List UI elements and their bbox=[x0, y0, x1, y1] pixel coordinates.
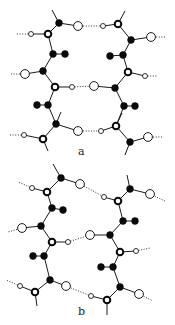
filled-atom bbox=[128, 37, 135, 44]
large-open-atom bbox=[135, 290, 144, 299]
filled-atom bbox=[107, 232, 114, 239]
bold-ring-atom bbox=[113, 123, 120, 130]
bold-ring-atom bbox=[49, 239, 56, 246]
filled-atom bbox=[132, 218, 139, 225]
hydrogen-bonds bbox=[9, 26, 166, 137]
filled-atom bbox=[107, 53, 114, 60]
bold-ring-atom bbox=[125, 69, 132, 76]
bold-ring-atom bbox=[40, 136, 47, 143]
filled-atom bbox=[127, 139, 134, 146]
chain-continuation-bonds bbox=[43, 10, 130, 155]
atoms bbox=[18, 175, 155, 304]
large-open-atom bbox=[21, 70, 30, 79]
filled-atom bbox=[45, 102, 52, 109]
large-open-atom bbox=[147, 33, 156, 42]
bold-ring-atom bbox=[115, 21, 122, 28]
filled-atom bbox=[56, 20, 63, 27]
filled-atom bbox=[121, 103, 128, 110]
small-open-atom bbox=[29, 32, 34, 37]
covalent-bond bbox=[44, 256, 50, 280]
bold-ring-atom bbox=[32, 289, 39, 296]
filled-atom bbox=[60, 207, 67, 214]
panel-b: b bbox=[6, 164, 165, 318]
filled-atom bbox=[53, 121, 60, 128]
filled-atom bbox=[117, 284, 124, 291]
bold-ring-atom bbox=[44, 189, 51, 196]
filled-atom bbox=[34, 102, 41, 109]
filled-atom bbox=[30, 253, 37, 260]
filled-atom bbox=[38, 223, 45, 230]
small-open-atom bbox=[134, 249, 139, 254]
hydrogen-bonds bbox=[6, 182, 165, 301]
large-open-atom bbox=[144, 133, 153, 142]
large-open-atom bbox=[74, 127, 83, 136]
filled-atom bbox=[120, 218, 127, 225]
bold-ring-atom bbox=[115, 198, 122, 205]
filled-atom bbox=[58, 175, 65, 182]
large-open-atom bbox=[74, 22, 83, 31]
filled-atom bbox=[120, 52, 127, 59]
small-open-atom bbox=[22, 133, 27, 138]
small-open-atom bbox=[101, 24, 106, 29]
filled-atom bbox=[47, 277, 54, 284]
filled-atom bbox=[112, 85, 119, 92]
large-open-atom bbox=[76, 180, 85, 189]
bold-ring-atom bbox=[117, 249, 124, 256]
hydrogen-bond-chain-diagram: a b bbox=[0, 0, 175, 325]
bold-ring-atom bbox=[45, 31, 52, 38]
filled-atom bbox=[50, 51, 57, 58]
hydrogen-bond bbox=[84, 186, 104, 197]
filled-atom bbox=[132, 103, 139, 110]
atoms bbox=[21, 20, 156, 146]
filled-atom bbox=[49, 205, 56, 212]
large-open-atom bbox=[90, 82, 99, 91]
filled-atom bbox=[127, 186, 134, 193]
filled-atom bbox=[62, 51, 69, 58]
panel-label-b: b bbox=[78, 305, 85, 318]
large-open-atom bbox=[18, 224, 27, 233]
bold-ring-atom bbox=[104, 297, 111, 304]
large-open-atom bbox=[86, 231, 95, 240]
small-open-atom bbox=[66, 240, 71, 245]
small-open-atom bbox=[99, 129, 104, 134]
filled-atom bbox=[41, 253, 48, 260]
bold-ring-atom bbox=[52, 84, 59, 91]
covalent-bonds bbox=[20, 178, 150, 300]
small-open-atom bbox=[30, 186, 35, 191]
small-open-atom bbox=[18, 284, 23, 289]
small-open-atom bbox=[143, 74, 148, 79]
filled-atom bbox=[98, 264, 105, 271]
large-open-atom bbox=[62, 282, 71, 291]
small-open-atom bbox=[102, 195, 107, 200]
filled-atom bbox=[110, 264, 117, 271]
panel-a: a bbox=[9, 10, 166, 158]
panel-label-a: a bbox=[78, 145, 85, 158]
filled-atom bbox=[40, 68, 47, 75]
large-open-atom bbox=[146, 190, 155, 199]
small-open-atom bbox=[70, 85, 75, 90]
small-open-atom bbox=[89, 294, 94, 299]
